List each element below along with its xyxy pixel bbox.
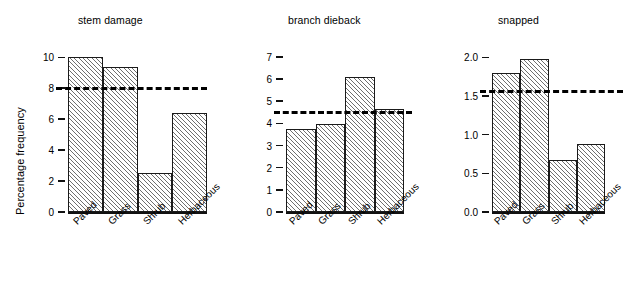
y-axis-tick [482,134,489,136]
y-axis-tick-label: 1.5 [436,90,478,101]
legend: Proportion in damage class for all trees… [0,268,623,306]
bar [520,59,548,212]
chart-title: snapped [498,14,539,26]
bar [492,73,520,212]
reference-line [480,90,623,93]
y-axis-tick [482,95,489,97]
figure-three-bar-charts: Percentage frequency stem damage0246810P… [0,0,623,306]
y-axis-tick-label: 0.0 [436,207,478,218]
chart-panel: snapped0.00.51.01.52.0PavedGrassShrubHer… [0,0,623,260]
y-axis-tick [482,57,489,59]
y-axis-tick [482,173,489,175]
y-axis-tick [482,211,489,213]
y-axis-tick-label: 0.5 [436,168,478,179]
y-axis-tick-label: 1.0 [436,129,478,140]
y-axis-tick-label: 2.0 [436,52,478,63]
